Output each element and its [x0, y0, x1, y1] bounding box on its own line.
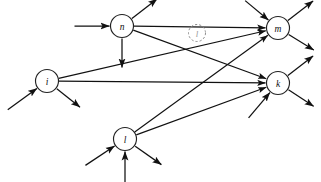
stub-in-l-11	[85, 146, 114, 165]
edge-i-to-k	[59, 81, 266, 83]
edge-n-to-m	[134, 26, 266, 28]
node-label-l_ghost: l	[196, 29, 199, 39]
node-label-i: i	[46, 77, 49, 87]
node-n[interactable]: n	[111, 15, 134, 38]
stub-out-k-9	[288, 56, 313, 75]
node-k[interactable]: k	[267, 72, 290, 95]
directed-graph-svg: nlmikl	[0, 0, 321, 182]
edge-n-to-k	[133, 30, 266, 79]
node-label-l: l	[124, 135, 127, 145]
edge-l-to-m	[135, 35, 268, 132]
diagram-canvas: nlmikl	[0, 0, 321, 182]
stub-out-i-7	[57, 89, 80, 107]
node-label-n: n	[120, 22, 125, 32]
stub-in-i-6	[8, 88, 37, 109]
node-i[interactable]: i	[36, 70, 59, 93]
node-l[interactable]: l	[114, 128, 137, 151]
edge-l-to-k	[136, 87, 266, 135]
edges-layer	[59, 26, 268, 135]
stub-out-k-10	[288, 90, 313, 106]
stub-out-m-4	[288, 1, 313, 20]
stub-out-n-1	[132, 0, 157, 18]
stub-in-m-3	[245, 1, 268, 20]
edge-i-to-m	[59, 31, 266, 79]
stub-out-m-5	[289, 35, 314, 50]
stub-in-k-8	[249, 93, 270, 118]
stub-out-l-13	[135, 146, 161, 164]
node-label-m: m	[275, 24, 282, 34]
node-m[interactable]: m	[267, 17, 290, 40]
